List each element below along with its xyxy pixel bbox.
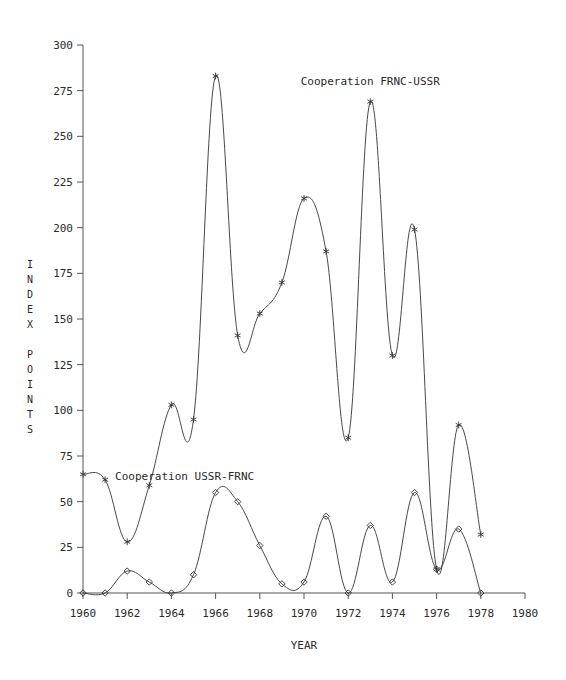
x-axis-tick-label: 1972 [335,607,362,620]
chart-series [80,73,484,597]
x-axis-title: YEAR [291,639,318,652]
x-axis-tick-label: 1962 [114,607,141,620]
series-2 [80,486,484,596]
series-polyline [83,75,481,574]
series-label-1: Cooperation FRNC-USSR [301,75,440,88]
series-polyline [83,486,481,595]
y-axis-title-char: I [27,259,33,270]
y-axis-title-char: T [27,409,33,420]
y-axis-tick-label: 25 [60,541,73,554]
y-axis-tick-label: 225 [53,176,73,189]
y-axis-tick-label: 175 [53,267,73,280]
x-axis-tick-label: 1964 [158,607,185,620]
x-axis-title-text: YEAR [291,639,318,652]
y-axis-title-char: I [27,379,33,390]
x-axis-tick-label: 1978 [468,607,495,620]
y-axis-title-char: N [27,394,33,405]
x-axis-tick-label: 1980 [512,607,539,620]
y-axis-tick-label: 275 [53,85,73,98]
y-axis-tick-label: 75 [60,450,73,463]
y-axis-tick-label: 300 [53,39,73,52]
series-annotations: Cooperation FRNC-USSRCooperation USSR-FR… [115,75,440,483]
line-chart-plot: 0255075100125150175200225250275300196019… [0,0,566,680]
x-axis-tick-label: 1974 [379,607,406,620]
x-axis-tick-label: 1970 [291,607,318,620]
y-axis-title-char: N [27,274,33,285]
y-axis-title-char: S [27,424,33,435]
y-axis-tick-label: 100 [53,404,73,417]
x-axis-tick-label: 1968 [247,607,274,620]
x-axis-tick-label: 1960 [70,607,97,620]
x-axis-tick-label: 1966 [202,607,229,620]
x-axis-tick-label: 1976 [423,607,450,620]
y-axis-tick-label: 250 [53,130,73,143]
chart-container: 0255075100125150175200225250275300196019… [0,0,566,680]
y-axis-tick-label: 150 [53,313,73,326]
y-axis-tick-label: 0 [66,587,73,600]
y-axis-title: INDEXPOINTS [27,259,33,435]
series-label-2: Cooperation USSR-FRNC [115,470,254,483]
y-axis-title-char: E [27,304,33,315]
y-axis-title-char: P [27,349,33,360]
y-axis-title-char: X [27,319,33,330]
series-1 [80,73,484,575]
y-axis-tick-label: 125 [53,359,73,372]
y-axis-title-char: O [27,364,33,375]
y-axis-tick-label: 200 [53,222,73,235]
y-axis-title-char: D [27,289,33,300]
chart-axes: 0255075100125150175200225250275300196019… [53,39,538,620]
y-axis-tick-label: 50 [60,496,73,509]
